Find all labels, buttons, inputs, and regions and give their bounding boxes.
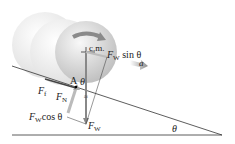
label-theta-angle: θ bbox=[172, 124, 177, 134]
label-fw-cos: FWcos θ bbox=[29, 112, 62, 124]
incline-line bbox=[12, 66, 222, 135]
label-fw-sin: FW sin θ bbox=[107, 50, 141, 62]
label-fw: FW bbox=[88, 121, 101, 133]
label-cm: c.m. bbox=[89, 44, 105, 53]
label-A: A bbox=[70, 76, 77, 86]
label-theta-top: θ bbox=[80, 77, 85, 87]
label-normal: FN bbox=[56, 92, 67, 104]
contact-point-A bbox=[75, 86, 78, 89]
label-acceleration: a bbox=[139, 59, 144, 68]
label-friction: Ff bbox=[38, 86, 46, 98]
normal-force-vector bbox=[68, 88, 76, 113]
svg-text:≈: ≈ bbox=[84, 93, 88, 101]
